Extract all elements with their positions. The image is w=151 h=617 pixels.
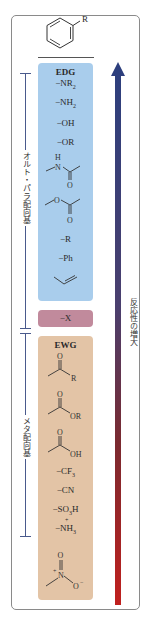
meta-label: メタ配向基	[20, 415, 31, 459]
svg-text:O: O	[57, 352, 63, 361]
svg-text:O: O	[67, 181, 73, 190]
carboxylic-acid-structure: O OH	[46, 426, 92, 460]
ewg-box: EWG O R O OR O OH −CF3 −CN −SO3H −NH3 +	[38, 336, 93, 600]
svg-text:N: N	[55, 163, 61, 172]
group-oh: −OH	[38, 118, 93, 128]
meta-bracket-bottom	[20, 536, 31, 537]
svg-text:O: O	[57, 428, 63, 437]
svg-text:O: O	[58, 551, 64, 560]
reactivity-label: 反応性の増大	[127, 298, 138, 346]
group-so3h: −SO3H	[38, 504, 93, 516]
ortho-para-label: オルト・パラ配向基	[20, 150, 31, 226]
group-ph: −Ph	[38, 253, 93, 263]
ewg-title: EWG	[38, 340, 93, 350]
acetamido-structure: H N O	[42, 153, 90, 191]
vinyl-structure	[52, 273, 80, 289]
svg-text:O: O	[67, 216, 73, 225]
svg-text:R: R	[71, 374, 77, 383]
svg-text:O: O	[57, 390, 63, 399]
group-nr2: −NR2	[38, 78, 93, 90]
svg-text:OH: OH	[70, 450, 82, 459]
nitro-structure: O N + O −	[44, 544, 90, 594]
group-x: −X	[38, 313, 93, 323]
substituent-r-label: R	[82, 14, 88, 24]
svg-text:O: O	[54, 196, 60, 205]
group-r: −R	[38, 234, 93, 244]
group-cf3: −CF3	[38, 466, 93, 478]
group-nh3-plus: −NH3 +	[38, 523, 93, 535]
acetoxy-structure: O O	[42, 193, 90, 229]
group-cn: −CN	[38, 485, 93, 495]
edg-title: EDG	[38, 67, 93, 77]
divider-line	[38, 57, 94, 58]
edg-box: EDG −NR2 −NH2 −OH −OR H N O O O −R −Ph	[38, 63, 93, 301]
svg-text:OR: OR	[70, 412, 82, 421]
group-or: −OR	[38, 137, 93, 147]
ortho-para-bracket-bottom	[20, 328, 31, 329]
svg-text:−: −	[80, 579, 84, 585]
ketone-structure: O R	[46, 350, 88, 384]
halogen-box: −X	[38, 310, 93, 327]
reactivity-arrow-icon	[111, 62, 125, 605]
svg-text:N: N	[58, 571, 64, 580]
ester-structure: O OR	[46, 388, 92, 422]
svg-text:+: +	[53, 568, 57, 574]
svg-text:H: H	[55, 153, 61, 162]
group-nh2: −NH2	[38, 97, 93, 109]
svg-text:O: O	[73, 582, 79, 591]
